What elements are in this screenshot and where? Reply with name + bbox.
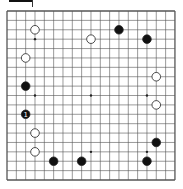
black-stone[interactable]	[115, 25, 124, 34]
white-stone[interactable]	[31, 25, 40, 34]
black-stone[interactable]	[152, 138, 161, 147]
go-board[interactable]: 1	[0, 0, 183, 189]
black-stone[interactable]	[49, 157, 58, 166]
star-point	[146, 151, 148, 153]
white-stone[interactable]	[21, 54, 30, 63]
black-stone[interactable]	[143, 35, 152, 44]
black-stone[interactable]	[21, 82, 30, 91]
white-stone[interactable]	[152, 101, 161, 110]
move-number: 1	[23, 111, 27, 119]
white-stone[interactable]	[152, 72, 161, 81]
star-point	[90, 94, 92, 96]
black-stone[interactable]	[77, 157, 86, 166]
white-stone[interactable]	[31, 148, 40, 157]
star-point	[146, 94, 148, 96]
star-point	[34, 94, 36, 96]
star-point	[34, 38, 36, 40]
star-point	[90, 151, 92, 153]
white-stone[interactable]	[87, 35, 96, 44]
black-stone[interactable]	[143, 157, 152, 166]
white-stone[interactable]	[31, 129, 40, 138]
